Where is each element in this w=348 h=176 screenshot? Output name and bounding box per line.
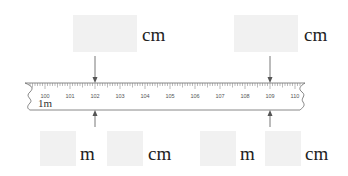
ruler-tick-label: 105 bbox=[165, 93, 174, 99]
ruler-tick-label: 110 bbox=[291, 93, 300, 99]
meter-label: 1m bbox=[38, 97, 53, 109]
ruler-torn-left-edge bbox=[25, 83, 32, 110]
up-arrow-head-icon bbox=[268, 110, 273, 116]
ruler-tick-label: 103 bbox=[115, 93, 124, 99]
ruler-tick-label: 101 bbox=[65, 93, 74, 99]
ruler-tick-label: 106 bbox=[190, 93, 199, 99]
arrows bbox=[93, 56, 273, 127]
ruler-tick-label: 107 bbox=[215, 93, 224, 99]
ruler: 100101102103104105106107108109110 1m bbox=[25, 83, 305, 110]
ruler-tick-label: 109 bbox=[265, 93, 274, 99]
ruler-tick-label: 102 bbox=[90, 93, 99, 99]
ruler-ticks bbox=[30, 83, 300, 89]
ruler-diagram: 100101102103104105106107108109110 1m bbox=[0, 0, 348, 176]
ruler-torn-right-edge bbox=[300, 83, 305, 110]
up-arrow-head-icon bbox=[93, 110, 98, 116]
ruler-tick-label: 104 bbox=[140, 93, 149, 99]
ruler-tick-labels: 100101102103104105106107108109110 bbox=[40, 93, 299, 99]
ruler-tick-label: 108 bbox=[240, 93, 249, 99]
down-arrow-head-icon bbox=[268, 77, 273, 83]
down-arrow-head-icon bbox=[93, 77, 98, 83]
